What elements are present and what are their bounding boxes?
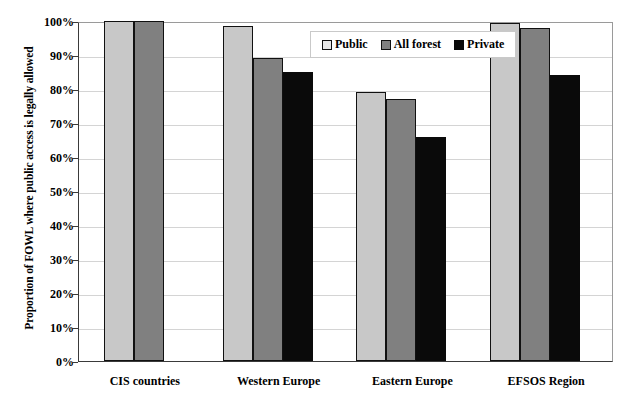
legend-swatch-icon-allforest: [381, 40, 391, 50]
y-tick-mark: [72, 362, 78, 363]
y-tick-label: 50%: [22, 185, 74, 200]
legend-label-allforest: All forest: [394, 37, 441, 52]
category-label-0: CIS countries: [110, 374, 180, 389]
y-tick-label: 60%: [22, 151, 74, 166]
y-tick-label: 10%: [22, 321, 74, 336]
legend-item-allforest: All forest: [381, 37, 441, 52]
y-tick-label: 80%: [22, 83, 74, 98]
bar-public-2: [356, 92, 386, 361]
category-label-1: Western Europe: [237, 374, 320, 389]
y-tick-label: 90%: [22, 49, 74, 64]
bar-private-3: [550, 75, 580, 361]
bar-private-2: [416, 137, 446, 361]
bar-allforest-1: [253, 58, 283, 361]
legend-swatch-icon-public: [322, 40, 332, 50]
y-tick-label: 20%: [22, 287, 74, 302]
legend: PublicAll forestPrivate: [310, 31, 516, 58]
legend-swatch-icon-private: [454, 40, 464, 50]
bar-public-3: [490, 23, 520, 361]
y-tick-label: 40%: [22, 219, 74, 234]
bar-allforest-0: [134, 21, 164, 361]
plot-area: [78, 22, 613, 362]
category-label-2: Eastern Europe: [372, 374, 453, 389]
y-tick-label: 0%: [22, 355, 74, 370]
bar-public-0: [104, 21, 134, 361]
bar-private-1: [283, 72, 313, 361]
bar-allforest-2: [386, 99, 416, 361]
bar-chart: Proportion of FOWL where public access i…: [0, 0, 634, 401]
legend-label-private: Private: [467, 37, 504, 52]
legend-label-public: Public: [335, 37, 368, 52]
legend-item-private: Private: [454, 37, 504, 52]
y-tick-label: 100%: [22, 15, 74, 30]
category-label-3: EFSOS Region: [508, 374, 585, 389]
legend-item-public: Public: [322, 37, 368, 52]
y-tick-label: 70%: [22, 117, 74, 132]
bar-public-1: [223, 26, 253, 361]
y-tick-label: 30%: [22, 253, 74, 268]
bar-allforest-3: [520, 28, 550, 361]
